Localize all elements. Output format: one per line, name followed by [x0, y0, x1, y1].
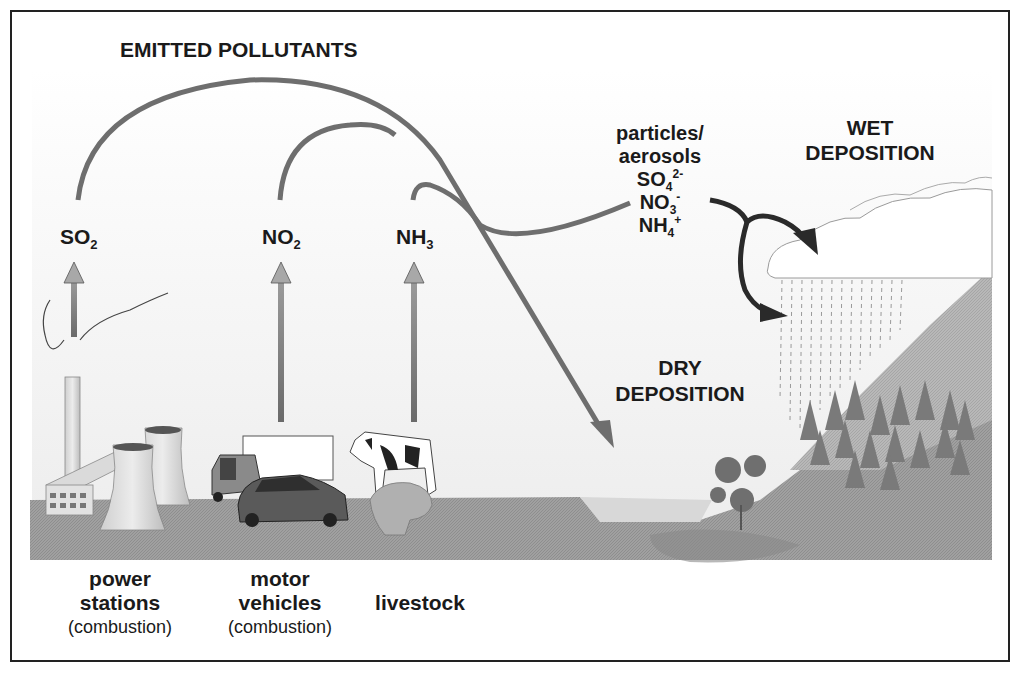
nh3-base: NH — [396, 225, 426, 248]
no2-sub: 2 — [294, 237, 301, 252]
wet-line2: DEPOSITION — [800, 140, 940, 165]
ion-sup: 2- — [672, 167, 683, 181]
source-line3: (combustion) — [50, 615, 190, 639]
aerosols-label: particles/ aerosols SO42- NO3- NH4+ — [600, 122, 720, 237]
source-line3: (combustion) — [210, 615, 350, 639]
ion-base: NO — [640, 191, 670, 213]
dry-line1: DRY — [600, 355, 760, 381]
source-line2: vehicles — [210, 591, 350, 615]
source-motor-vehicles: motor vehicles (combustion) — [210, 567, 350, 639]
source-livestock: livestock — [365, 591, 475, 615]
nh3-sub: 3 — [426, 237, 433, 252]
source-line1: motor — [210, 567, 350, 591]
diagram-title: EMITTED POLLUTANTS — [120, 38, 358, 62]
so2-base: SO — [60, 225, 90, 248]
ion-sup: + — [674, 213, 681, 227]
aerosols-line2: aerosols — [600, 145, 720, 168]
ion-ammonium: NH4+ — [600, 214, 720, 237]
so2-sub: 2 — [90, 237, 97, 252]
source-power-stations: power stations (combustion) — [50, 567, 190, 639]
source-line1: power — [50, 567, 190, 591]
wet-line1: WET — [800, 115, 940, 140]
dry-deposition-label: DRY DEPOSITION — [600, 355, 760, 407]
aerosols-line1: particles/ — [600, 122, 720, 145]
ion-base: NH — [639, 214, 668, 236]
source-line1: livestock — [365, 591, 475, 615]
field — [580, 497, 712, 522]
no2-base: NO — [262, 225, 294, 248]
ion-sup: - — [676, 190, 680, 204]
wet-deposition-label: WET DEPOSITION — [800, 115, 940, 165]
ion-sulfate: SO42- — [600, 168, 720, 191]
source-line2: stations — [50, 591, 190, 615]
label-so2: SO2 — [60, 225, 98, 252]
label-nh3: NH3 — [396, 225, 434, 252]
ion-base: SO — [637, 168, 666, 190]
ion-sub: 4 — [668, 226, 675, 240]
dry-line2: DEPOSITION — [600, 381, 760, 407]
ion-nitrate: NO3- — [600, 191, 720, 214]
label-no2: NO2 — [262, 225, 301, 252]
